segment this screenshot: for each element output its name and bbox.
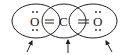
pointer-arrows [27,40,112,53]
atom-oxygen-right: O [93,14,102,29]
arrow-icon [27,41,32,52]
co2-lewis-diagram: O C O [0,0,128,55]
arrow-icon [106,41,112,52]
atom-oxygen-left: O [30,14,39,29]
atom-carbon: C [59,14,68,29]
